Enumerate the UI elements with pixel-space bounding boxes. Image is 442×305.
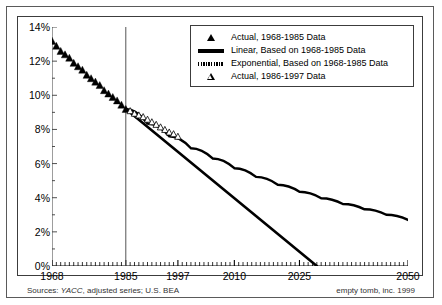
legend-label: Actual, 1986-1997 Data [231, 72, 326, 81]
legend-label: Actual, 1968-1985 Data [231, 33, 326, 42]
y-tick-label: 14% [29, 22, 50, 33]
legend-item: Linear, Based on 1968-1985 Data [191, 44, 413, 57]
y-tick-label: 4% [35, 192, 50, 203]
y-tick-label: 8% [35, 124, 50, 135]
open-triangle-icon [207, 73, 215, 80]
sources-prefix: Sources: [27, 286, 61, 295]
legend-label: Linear, Based on 1968-1985 Data [231, 46, 366, 55]
sources-italic-term: YACC [61, 286, 83, 295]
x-tick-label: 1997 [166, 271, 189, 282]
y-tick-label: 12% [29, 56, 50, 67]
sources-note: Sources: YACC, adjusted series; U.S. BEA [27, 286, 179, 295]
legend-item: Actual, 1968-1985 Data [191, 31, 413, 44]
legend-key [191, 49, 231, 53]
legend-key [191, 62, 231, 66]
chart-screenshot: 0%2%4%6%8%10%12%14% 19681985199720102025… [0, 0, 442, 305]
x-tick-label: 2025 [288, 271, 311, 282]
hatched-line-icon [198, 62, 224, 66]
chart-legend: Actual, 1968-1985 DataLinear, Based on 1… [190, 25, 414, 87]
legend-item: Actual, 1986-1997 Data [191, 70, 413, 83]
y-tick-label: 2% [35, 227, 50, 238]
legend-label: Exponential, Based on 1968-1985 Data [231, 59, 388, 68]
x-tick-label: 1968 [40, 271, 63, 282]
x-tick-label: 2050 [396, 271, 419, 282]
y-axis-labels: 0%2%4%6%8%10%12%14% [17, 27, 50, 266]
legend-rows: Actual, 1968-1985 DataLinear, Based on 1… [191, 31, 413, 83]
x-axis-labels: 196819851997201020252050 [52, 271, 408, 285]
y-tick-label: 6% [35, 158, 50, 169]
x-tick-label: 2010 [223, 271, 246, 282]
exponential-projection-line [126, 109, 408, 220]
legend-key [191, 73, 231, 80]
filled-triangle-icon [207, 34, 215, 41]
actual-1968-1985-marker [52, 37, 56, 44]
legend-item: Exponential, Based on 1968-1985 Data [191, 57, 413, 70]
sources-suffix: , adjusted series; U.S. BEA [83, 286, 180, 295]
y-tick-label: 10% [29, 90, 50, 101]
legend-key [191, 34, 231, 41]
x-tick-label: 1985 [114, 271, 137, 282]
credit-note: empty tomb, inc. 1999 [336, 286, 415, 295]
solid-line-icon [198, 49, 224, 53]
